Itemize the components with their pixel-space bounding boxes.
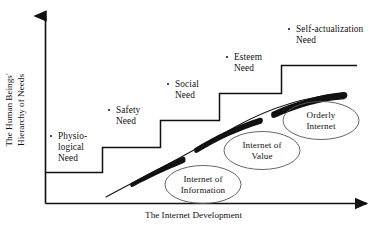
y-axis-title: The Human Beings' Hierarchy of Needs [4,30,27,190]
ellipse-label-orderly-internet: Orderly Internet [276,110,366,132]
needs-internet-diagram: The Human Beings' Hierarchy of Needs The… [0,0,387,225]
bullet-esteem-icon [226,56,228,58]
step-label-esteem: Esteem Need [234,52,262,74]
step-label-self-actualization: Self-actualization Need [296,24,363,46]
x-axis-title: The Internet Development [0,210,387,220]
bullet-physiological-icon [50,135,52,137]
bullet-social-icon [167,83,169,85]
ellipse-label-internet-of-value: Internet of Value [217,140,307,162]
step-label-physiological: Physio- logical Need [58,131,87,165]
ellipse-label-internet-of-information: Internet of Information [158,174,248,196]
bullet-self-actualization-icon [288,28,290,30]
step-label-safety: Safety Need [116,105,140,127]
step-label-social: Social Need [175,79,199,101]
bullet-safety-icon [108,109,110,111]
